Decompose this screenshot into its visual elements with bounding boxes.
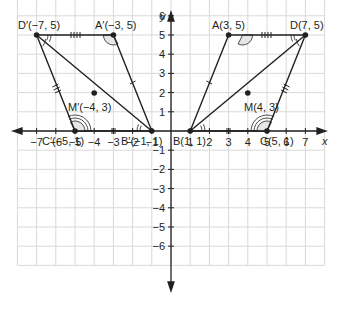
point-B-prime (149, 128, 155, 134)
label-C: C(5, 1) (260, 135, 294, 147)
x-axis-label: x (321, 135, 328, 147)
point-A (226, 32, 232, 38)
y-tick-label: 3 (159, 67, 165, 79)
angle-mark-B-2 (203, 124, 205, 131)
coordinate-plane: −7−6−5−4−3−2−11234567654321−1−2−3−4−5−6 … (0, 0, 341, 310)
y-tick-label: −3 (152, 183, 165, 195)
x-tick-label: 2 (206, 136, 212, 148)
label-B: B(1, 1) (173, 135, 206, 147)
y-tick-label: 4 (159, 48, 165, 60)
angle-marks-left (43, 35, 142, 131)
y-tick-label: −5 (152, 221, 165, 233)
point-D (303, 32, 309, 38)
x-tick-label: −4 (88, 136, 101, 148)
x-tick-label: −7 (30, 136, 43, 148)
angle-mark-D (294, 35, 295, 40)
y-axis-down-arrow-icon (168, 282, 174, 291)
x-tick-label: −3 (107, 136, 120, 148)
y-tick-label: 5 (159, 29, 165, 41)
angle-mark-B-prime-2 (137, 124, 139, 131)
point-C (264, 128, 270, 134)
point-M-prime (91, 90, 97, 96)
point-D-prime (34, 32, 40, 38)
point-C-prime (72, 128, 78, 134)
angle-mark-A (238, 35, 253, 45)
y-tick-label: −6 (152, 240, 165, 252)
point-A-prime (111, 32, 117, 38)
label-B-prime: B′(−1, 1) (121, 135, 163, 147)
label-M-prime: M′(−4, 3) (68, 101, 111, 113)
y-tick-label: −4 (152, 202, 165, 214)
label-A: A(3, 5) (212, 19, 245, 31)
y-tick-label: −2 (152, 163, 165, 175)
angle-mark-B (201, 126, 202, 131)
label-D: D(7, 5) (290, 19, 324, 31)
x-tick-label: 4 (245, 136, 251, 148)
x-tick-label: 3 (226, 136, 232, 148)
angle-mark-D-prime-2 (49, 35, 51, 42)
angle-mark-B-prime (140, 126, 141, 131)
point-B (187, 128, 193, 134)
x-axis-left-arrow-icon (13, 128, 22, 134)
y-tick-label: 2 (159, 87, 165, 99)
y-tick-label: 1 (159, 106, 165, 118)
angle-mark-D-2 (291, 35, 293, 42)
label-M: M(4, 3) (244, 101, 279, 113)
x-tick-label: 7 (302, 136, 308, 148)
label-C-prime: C′(−5, 1) (42, 135, 84, 147)
angle-mark-D-prime (47, 35, 48, 40)
angle-marks-right (201, 35, 300, 131)
label-A-prime: A′(−3, 5) (95, 19, 137, 31)
label-D-prime: D′(−7, 5) (18, 19, 60, 31)
y-axis-up-arrow-icon (168, 12, 174, 21)
point-M (245, 90, 251, 96)
